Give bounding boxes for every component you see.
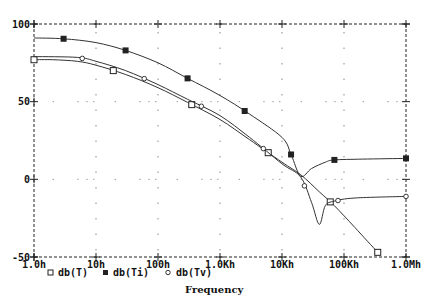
- series-line-dbt: [34, 60, 378, 253]
- x-axis-title: Frequency: [185, 284, 245, 295]
- open-diamond-marker-icon: [261, 146, 266, 151]
- open-diamond-marker-icon: [336, 198, 341, 203]
- filled-square-marker-icon: [403, 155, 409, 161]
- filled-square-marker-icon: [331, 157, 337, 163]
- legend-label-tv: db(Tv): [176, 267, 212, 278]
- filled-square-marker-icon: [288, 151, 294, 157]
- x-tick-label: 10Kh: [270, 259, 294, 270]
- open-diamond-marker-icon: [199, 104, 204, 109]
- legend-label-ti: db(Ti): [113, 267, 149, 278]
- open-diamond-marker-icon: [80, 56, 85, 61]
- x-tick-label: 1.0Mh: [391, 259, 421, 270]
- y-axis: 100500-50: [12, 19, 410, 263]
- x-tick-label: 1.0h: [22, 259, 46, 270]
- legend-filled-square-icon: [103, 270, 108, 275]
- y-tick-label: 0: [24, 174, 30, 185]
- data-series: [31, 36, 409, 256]
- open-square-marker-icon: [110, 68, 116, 74]
- legend-open-diamond-icon: [166, 270, 170, 274]
- x-tick-label: 100Kh: [329, 259, 359, 270]
- filled-square-marker-icon: [123, 47, 129, 53]
- legend: db(T) db(Ti) db(Tv): [48, 267, 212, 278]
- bode-plot: 100500-50 1.0h10h100h1.0Kh10Kh100Kh1.0Mh…: [0, 0, 428, 306]
- series-line-dbti: [34, 38, 406, 177]
- legend-open-square-icon: [48, 270, 53, 275]
- filled-square-marker-icon: [61, 36, 67, 42]
- open-diamond-marker-icon: [302, 184, 307, 189]
- y-tick-label: 50: [18, 96, 30, 107]
- x-tick-label: 100h: [146, 259, 170, 270]
- legend-label-t: db(T): [58, 267, 88, 278]
- open-square-marker-icon: [375, 249, 381, 255]
- open-square-marker-icon: [31, 57, 37, 63]
- grid: [53, 32, 405, 251]
- y-tick-label: 100: [12, 19, 30, 30]
- open-diamond-marker-icon: [142, 76, 147, 81]
- x-tick-label: 10h: [87, 259, 105, 270]
- filled-square-marker-icon: [185, 75, 191, 81]
- open-diamond-marker-icon: [404, 194, 409, 199]
- filled-square-marker-icon: [242, 108, 248, 114]
